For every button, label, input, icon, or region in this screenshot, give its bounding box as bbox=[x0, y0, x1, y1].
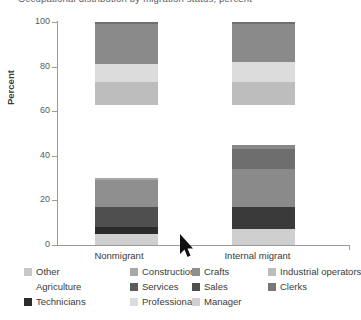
x-tick-label-internal-migrant: Internal migrant bbox=[200, 250, 315, 261]
chart-title: Occupational distribution by migration s… bbox=[18, 0, 252, 4]
legend-row-2: AgricultureServicesSalesClerks bbox=[0, 281, 354, 296]
legend-label: Manager bbox=[204, 296, 242, 307]
legend-swatch-construction bbox=[130, 268, 138, 276]
legend-row-1: OtherConstructionCraftsIndustrial operat… bbox=[0, 266, 354, 281]
legend-label: Construction bbox=[142, 266, 195, 277]
bar-segment-manager[interactable] bbox=[95, 234, 158, 245]
legend-item[interactable]: Technicians bbox=[24, 296, 86, 307]
bar-segment-agriculture[interactable] bbox=[95, 105, 158, 179]
legend-item[interactable]: Clerks bbox=[268, 281, 307, 292]
legend-item[interactable]: Other bbox=[24, 266, 60, 277]
bar-segment-manager[interactable] bbox=[232, 229, 295, 245]
bar-segment-technicians[interactable] bbox=[95, 227, 158, 234]
legend-label: Technicians bbox=[36, 296, 86, 307]
bar-segment-crafts[interactable] bbox=[232, 149, 295, 169]
legend-label: Clerks bbox=[280, 281, 307, 292]
x-tick-label-nonmigrant: Nonmigrant bbox=[64, 250, 174, 261]
legend-label: Crafts bbox=[204, 266, 229, 277]
bar-segment-technicians[interactable] bbox=[232, 207, 295, 229]
legend-item[interactable]: Manager bbox=[192, 296, 242, 307]
bar-segment-clerks[interactable] bbox=[232, 24, 295, 62]
bar-segment-professional[interactable] bbox=[95, 64, 158, 82]
bar-segment-other[interactable] bbox=[95, 22, 158, 24]
y-axis-label: Percent bbox=[5, 70, 16, 105]
legend-swatch-industrial-operators bbox=[268, 268, 276, 276]
legend-label: Professional bbox=[142, 296, 194, 307]
legend-item[interactable]: Professional bbox=[130, 296, 194, 307]
legend-swatch-crafts bbox=[192, 268, 200, 276]
y-tick-mark bbox=[52, 245, 57, 246]
y-tick-label: 80 bbox=[8, 61, 50, 71]
legend-swatch-professional bbox=[130, 298, 138, 306]
legend-item[interactable]: Services bbox=[130, 281, 178, 292]
legend-swatch-agriculture bbox=[24, 283, 32, 291]
legend: OtherConstructionCraftsIndustrial operat… bbox=[0, 266, 354, 316]
legend-row-3: TechniciansProfessionalManager bbox=[0, 296, 354, 311]
legend-swatch-clerks bbox=[268, 283, 276, 291]
legend-item[interactable]: Agriculture bbox=[24, 281, 81, 292]
bar-segment-industrial-operators[interactable] bbox=[232, 82, 295, 104]
legend-label: Agriculture bbox=[36, 281, 81, 292]
legend-item[interactable]: Industrial operators bbox=[268, 266, 361, 277]
legend-swatch-other bbox=[24, 268, 32, 276]
bar-segment-crafts[interactable] bbox=[95, 180, 158, 207]
legend-swatch-services bbox=[130, 283, 138, 291]
y-tick-label: 0 bbox=[8, 239, 50, 249]
legend-label: Other bbox=[36, 266, 60, 277]
bar-segment-sales[interactable] bbox=[95, 207, 158, 227]
legend-label: Services bbox=[142, 281, 178, 292]
bar-segment-agriculture[interactable] bbox=[232, 105, 295, 145]
x-axis-end-tick bbox=[349, 245, 350, 250]
y-tick-label: 20 bbox=[8, 194, 50, 204]
y-tick-label: 100 bbox=[8, 16, 50, 26]
legend-item[interactable]: Crafts bbox=[192, 266, 229, 277]
legend-label: Industrial operators bbox=[280, 266, 361, 277]
x-axis-line bbox=[57, 245, 350, 246]
legend-swatch-manager bbox=[192, 298, 200, 306]
legend-item[interactable]: Construction bbox=[130, 266, 195, 277]
y-tick-label: 60 bbox=[8, 105, 50, 115]
legend-swatch-sales bbox=[192, 283, 200, 291]
bar-segment-services[interactable] bbox=[232, 169, 295, 207]
legend-swatch-technicians bbox=[24, 298, 32, 306]
bar-segment-other[interactable] bbox=[232, 22, 295, 24]
bar-segment-construction[interactable] bbox=[232, 145, 295, 149]
bar-segment-professional[interactable] bbox=[232, 62, 295, 82]
legend-item[interactable]: Sales bbox=[192, 281, 228, 292]
bar-segment-clerks[interactable] bbox=[95, 24, 158, 64]
bar-segment-construction[interactable] bbox=[95, 178, 158, 180]
plot-area bbox=[57, 22, 350, 245]
y-tick-label: 40 bbox=[8, 150, 50, 160]
bar-segment-industrial-operators[interactable] bbox=[95, 82, 158, 104]
legend-label: Sales bbox=[204, 281, 228, 292]
mouse-cursor-icon bbox=[179, 234, 195, 260]
